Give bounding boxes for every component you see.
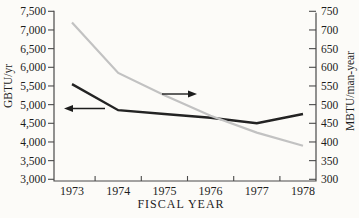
- right-arrow-head: [188, 90, 197, 97]
- right-axis-tick-label: 700: [321, 24, 339, 36]
- series-line-energy-intensity-mbtu-per-man-year: [72, 23, 303, 146]
- right-axis-tick-label: 550: [321, 80, 339, 92]
- right-axis-tick-label: 450: [321, 117, 339, 129]
- x-axis-tick-label: 1973: [60, 184, 84, 198]
- left-axis-tick-label: 6,500: [20, 43, 46, 56]
- left-axis-title: GBTU/yr: [2, 64, 14, 108]
- x-axis-tick-label: 1977: [245, 184, 269, 198]
- chart-canvas: 3,0003,5004,0004,5005,0005,5006,0006,500…: [0, 0, 359, 218]
- left-axis-tick-label: 5,000: [20, 99, 46, 112]
- right-axis-tick-label: 350: [321, 155, 339, 167]
- left-axis-tick-label: 6,000: [20, 61, 46, 74]
- left-axis-tick-label: 7,000: [20, 24, 46, 37]
- left-axis-tick-label: 5,500: [20, 80, 46, 93]
- right-axis-tick-label: 400: [321, 136, 339, 148]
- right-axis-tick-label: 600: [321, 61, 339, 73]
- right-axis-tick-label: 500: [321, 99, 339, 111]
- left-axis-tick-label: 3,500: [20, 155, 46, 168]
- x-axis-tick-label: 1974: [106, 184, 130, 198]
- left-arrow-head: [64, 105, 73, 112]
- x-axis-tick-label: 1978: [291, 184, 315, 198]
- right-axis-tick-label: 750: [321, 5, 339, 17]
- series-line-total-energy-gbtu-per-yr: [72, 84, 303, 123]
- left-axis-tick-label: 4,500: [20, 117, 46, 130]
- figure: 3,0003,5004,0004,5005,0005,5006,0006,500…: [0, 0, 359, 218]
- x-axis-title: FISCAL YEAR: [137, 197, 224, 212]
- right-axis-title: MBTU/man-year: [344, 51, 356, 131]
- left-axis-tick-label: 4,000: [20, 136, 46, 149]
- left-axis-tick-label: 3,000: [20, 173, 46, 186]
- right-axis-tick-label: 650: [321, 43, 339, 55]
- left-axis-tick-label: 7,500: [20, 5, 46, 18]
- right-axis-tick-label: 300: [321, 173, 339, 185]
